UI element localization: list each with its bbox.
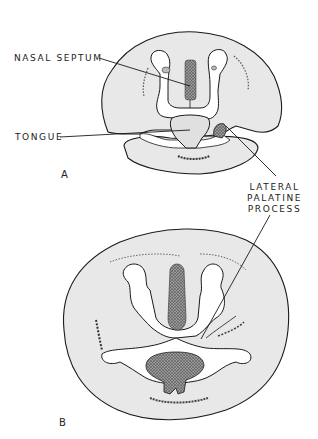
label-lateral-palatine-line1: LATERAL bbox=[247, 182, 302, 193]
panel-a-nasal-septum bbox=[185, 60, 196, 100]
panel-b-section bbox=[63, 229, 288, 420]
panel-label-a: A bbox=[61, 169, 68, 180]
label-lateral-palatine-line3: PROCESS bbox=[247, 204, 302, 215]
label-tongue: TONGUE bbox=[15, 132, 63, 143]
embryo-cross-section-figure bbox=[0, 0, 318, 439]
label-nasal-septum: NASAL SEPTUM bbox=[14, 53, 103, 64]
label-lateral-palatine-process: LATERAL PALATINE PROCESS bbox=[247, 182, 302, 215]
panel-b-nasal-septum bbox=[168, 264, 186, 330]
panel-a-section bbox=[102, 32, 282, 174]
label-lateral-palatine-line2: PALATINE bbox=[247, 193, 302, 204]
panel-label-b: B bbox=[59, 417, 66, 428]
